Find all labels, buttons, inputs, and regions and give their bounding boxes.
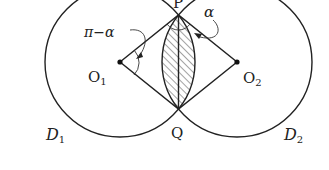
label-p: P: [173, 0, 183, 12]
intersecting-circles-diagram: P Q α π−α O1 O2 D1 D2: [0, 0, 329, 170]
label-q: Q: [171, 124, 183, 142]
arrowhead-alpha: [194, 33, 202, 39]
center-o2-dot: [234, 59, 239, 64]
label-o2: O2: [243, 69, 262, 88]
label-pi-minus-alpha: π−α: [83, 24, 115, 40]
label-d2: D2: [283, 125, 303, 145]
label-o1: O1: [88, 68, 107, 87]
label-d1: D1: [45, 125, 65, 145]
label-alpha: α: [204, 3, 214, 21]
leader-pi-minus-alpha: [130, 30, 145, 55]
arrowhead-pi-minus-alpha: [136, 52, 143, 59]
angle-arc-o1: [134, 51, 139, 76]
center-o1-dot: [117, 59, 122, 64]
